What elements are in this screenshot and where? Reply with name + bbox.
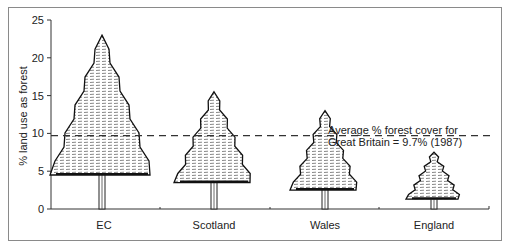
y-tick-label: 0 — [38, 203, 44, 215]
x-category-label: Scotland — [193, 219, 236, 231]
reference-line-annotation: Average % forest cover for Great Britain… — [328, 124, 462, 148]
tree-pictograms — [50, 35, 459, 209]
tree-ec — [50, 35, 150, 209]
annotation-line-1: Average % forest cover for — [328, 124, 462, 136]
tree-scotland — [174, 92, 250, 209]
tree-england — [406, 152, 459, 209]
x-category-label: Wales — [310, 219, 341, 231]
y-tick-label: 15 — [32, 90, 44, 102]
y-tick-label: 25 — [32, 14, 44, 26]
y-tick-label: 10 — [32, 127, 44, 139]
annotation-line-2: Great Britain = 9.7% (1987) — [328, 136, 462, 148]
y-tick-label: 5 — [38, 165, 44, 177]
x-axis: ECScotlandWalesEngland — [51, 206, 489, 231]
y-axis: 0510152025 — [32, 14, 51, 215]
x-category-label: England — [414, 219, 454, 231]
x-category-label: EC — [96, 219, 111, 231]
y-tick-label: 20 — [32, 52, 44, 64]
